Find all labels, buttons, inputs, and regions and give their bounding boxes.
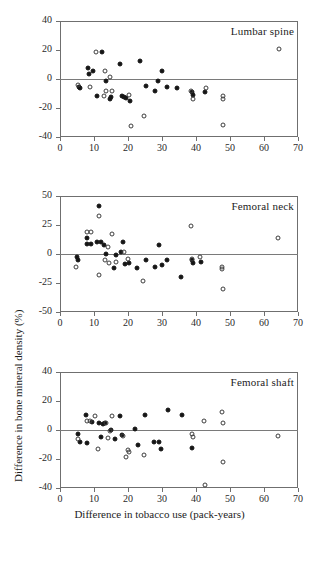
data-point-filled [83,412,88,417]
data-point-filled [136,443,141,448]
data-point-open [110,414,115,419]
data-point-open [220,420,225,425]
x-tick-mark [264,488,265,492]
x-tick-label: 20 [113,493,143,504]
data-point-open [104,421,109,426]
data-point-filled [189,446,194,451]
y-tick-mark [56,459,60,460]
data-point-open [202,483,207,488]
data-point-open [108,428,113,433]
data-point-open [87,418,92,423]
data-point-open [202,419,207,424]
x-tick-mark [94,488,95,492]
x-tick-label: 50 [215,493,245,504]
x-tick-mark [162,488,163,492]
data-point-filled [166,407,171,412]
bone-density-tobacco-figure: Difference in bone mineral density (%) D… [0,0,319,562]
data-point-open [106,435,111,440]
data-point-filled [157,440,162,445]
x-tick-mark [60,488,61,492]
data-point-filled [117,414,122,419]
y-tick-mark [56,401,60,402]
data-point-filled [113,436,118,441]
y-tick-label: 40 [22,365,52,376]
zero-reference-line [60,430,298,431]
data-point-open [219,409,224,414]
data-point-open [276,433,281,438]
data-point-filled [98,435,103,440]
data-point-open [190,434,195,439]
data-point-open [142,452,147,457]
data-point-open [126,447,131,452]
y-tick-mark [56,430,60,431]
y-tick-label: 20 [22,394,52,405]
y-tick-mark [56,372,60,373]
x-tick-label: 0 [45,493,75,504]
x-tick-label: 10 [79,493,109,504]
y-tick-label: -40 [22,481,52,492]
x-tick-mark [128,488,129,492]
data-point-open [120,433,125,438]
chart-panel-3: Femoral shaft40200-20-40010203040506070 [0,0,319,562]
data-point-open [96,446,101,451]
data-point-open [75,436,80,441]
panel-title: Femoral shaft [231,376,294,388]
data-point-filled [180,412,185,417]
y-tick-label: -20 [22,452,52,463]
data-point-filled [84,441,89,446]
data-point-filled [158,446,163,451]
x-tick-mark [230,488,231,492]
data-point-filled [143,412,148,417]
x-tick-label: 60 [249,493,279,504]
y-tick-label: 0 [22,423,52,434]
x-tick-mark [298,488,299,492]
data-point-open [220,459,225,464]
data-point-open [92,414,97,419]
data-point-filled [132,426,137,431]
x-tick-label: 40 [181,493,211,504]
x-tick-label: 70 [283,493,313,504]
data-point-filled [151,439,156,444]
x-tick-label: 30 [147,493,177,504]
x-tick-mark [196,488,197,492]
data-point-open [123,454,128,459]
